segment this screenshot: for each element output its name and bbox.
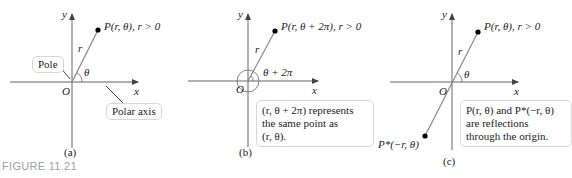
note-line: the same point as	[262, 117, 368, 130]
note-line: through the origin.	[466, 130, 566, 143]
equivalence-note: (r, θ + 2π) represents the same point as…	[256, 100, 374, 147]
ray-label: r	[255, 43, 260, 55]
reflection-note: P(r, θ) and P*(−r, θ) are reflections th…	[460, 100, 572, 147]
angle-label: θ	[84, 66, 90, 78]
point-p-star	[422, 133, 427, 138]
origin-label: O	[236, 83, 244, 95]
ray-label: r	[458, 45, 463, 57]
point-label: P(r, θ), r > 0	[483, 20, 541, 33]
x-axis-label: x	[513, 85, 519, 97]
note-line: P(r, θ) and P*(−r, θ)	[466, 104, 566, 117]
panel-c-caption: (c)	[443, 155, 455, 167]
angle-label: θ	[464, 68, 470, 80]
angle-arc	[77, 73, 82, 82]
note-line: are reflections	[466, 117, 566, 130]
panel-a-caption: (a)	[64, 146, 76, 158]
note-line: (r, θ).	[262, 130, 368, 143]
angle-arc	[251, 76, 253, 81]
point-p	[95, 27, 100, 32]
origin-label: O	[439, 85, 447, 97]
point-p	[272, 28, 277, 33]
x-axis-label: x	[133, 85, 139, 97]
panel-b-caption: (b)	[239, 146, 252, 158]
y-axis-label: y	[61, 8, 67, 20]
polar-axis-callout: Polar axis	[106, 103, 162, 120]
ray-label: r	[78, 42, 83, 54]
point-p	[475, 29, 480, 34]
pole-callout: Pole	[32, 56, 64, 73]
angle-label: θ + 2π	[263, 66, 293, 78]
y-axis-label: y	[441, 8, 447, 20]
point-label: P(r, θ + 2π), r > 0	[280, 20, 362, 33]
panel-a: y x O P(r, θ), r > 0 r θ	[10, 8, 161, 148]
polar-axis-leader-line	[106, 86, 124, 104]
note-line: (r, θ + 2π) represents	[262, 104, 368, 117]
y-axis-label: y	[237, 8, 243, 20]
figure-label: FIGURE 11.21	[2, 160, 77, 172]
x-axis-label: x	[311, 84, 317, 96]
point-label: P(r, θ), r > 0	[103, 20, 161, 33]
reflected-point-label: P*(−r, θ)	[377, 138, 419, 151]
origin-label: O	[62, 85, 70, 97]
angle-arc	[457, 73, 462, 82]
